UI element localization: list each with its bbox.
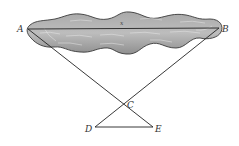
- point-label-b: B: [221, 24, 229, 34]
- point-label-c: C: [127, 100, 134, 110]
- point-label-d: D: [84, 124, 92, 134]
- lake-triangle-diagram: x A B C D E: [0, 0, 239, 146]
- diagram-canvas: x A B C D E: [0, 0, 239, 146]
- point-label-a: A: [16, 24, 24, 34]
- point-label-e: E: [154, 124, 162, 134]
